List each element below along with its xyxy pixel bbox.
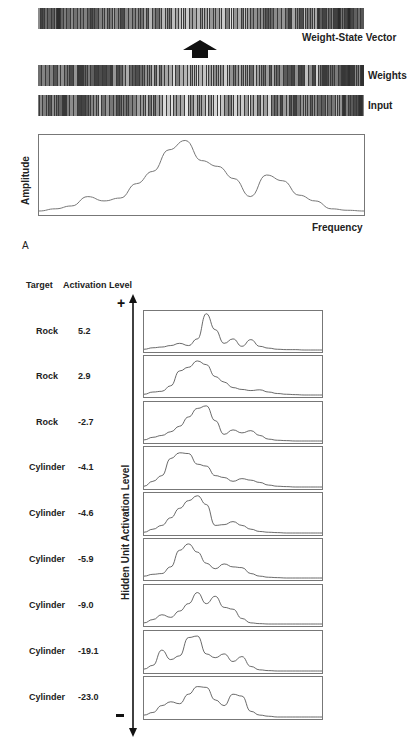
row-activation-value: -4.1 <box>78 462 94 472</box>
weight-state-vector-bar <box>38 8 364 29</box>
up-arrow-icon <box>183 40 217 58</box>
row-activation-value: -23.0 <box>78 692 99 702</box>
input-bar <box>38 95 364 116</box>
row-target-label: Cylinder <box>24 646 70 656</box>
target-column-header: Target <box>26 280 53 290</box>
row-activation-value: -5.9 <box>78 554 94 564</box>
activation-column-header: Activation Level <box>63 280 132 290</box>
row-activation-value: 5.2 <box>78 326 91 336</box>
row-target-label: Cylinder <box>24 462 70 472</box>
weights-bar <box>38 65 364 86</box>
spectrum-panel <box>143 355 323 398</box>
spectrum-panel <box>143 584 323 627</box>
amplitude-axis-label: Amplitude <box>20 156 31 205</box>
spectrum-panel <box>143 492 323 536</box>
row-target-label: Rock <box>24 326 70 336</box>
minus-sign <box>116 714 124 717</box>
spectrum-panel <box>143 538 323 581</box>
row-target-label: Rock <box>24 417 70 427</box>
row-activation-value: 2.9 <box>78 371 91 381</box>
row-target-label: Cylinder <box>24 600 70 610</box>
spectrum-panel <box>143 310 323 353</box>
panel-label: A <box>22 240 29 251</box>
spectrum-plot <box>38 134 365 216</box>
hidden-unit-activation-axis-label: Hidden Unit Activation Level <box>120 465 131 600</box>
row-activation-value: -4.6 <box>78 508 94 518</box>
row-target-label: Cylinder <box>24 508 70 518</box>
row-activation-value: -19.1 <box>78 646 99 656</box>
weight-state-vector-label: Weight-State Vector <box>302 32 396 43</box>
row-activation-value: -2.7 <box>78 417 94 427</box>
weights-label: Weights <box>368 70 407 81</box>
spectrum-panel <box>143 446 323 490</box>
frequency-axis-label: Frequency <box>312 222 363 233</box>
row-activation-value: -9.0 <box>78 600 94 610</box>
spectrum-panel <box>143 676 323 720</box>
row-target-label: Cylinder <box>24 692 70 702</box>
row-target-label: Rock <box>24 371 70 381</box>
input-label: Input <box>368 100 392 111</box>
spectrum-panel <box>143 401 323 444</box>
row-target-label: Cylinder <box>24 554 70 564</box>
plus-sign: + <box>117 296 125 310</box>
spectrum-panel <box>143 630 323 674</box>
